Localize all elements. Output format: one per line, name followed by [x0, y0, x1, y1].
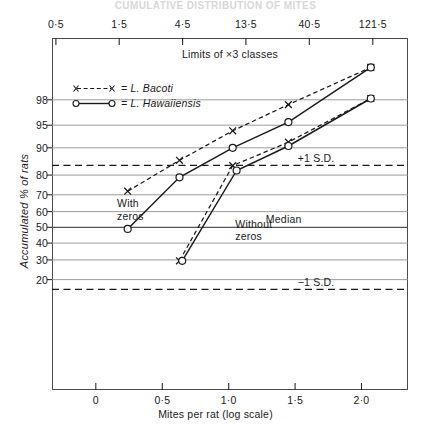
legend-item-hawaiiensis: = L. Hawaiiensis [72, 96, 201, 111]
chart-svg [0, 0, 431, 435]
top-axis-tick-label-0: 0·5 [48, 18, 64, 30]
chart-canvas [0, 0, 431, 435]
x-axis-tick-label-1: 0·5 [154, 394, 170, 406]
marker-cross [124, 188, 131, 195]
annotation-plus-1sd: +1 S.D. [298, 152, 335, 165]
annotation-median: Median [266, 213, 302, 226]
marker-circle [285, 143, 292, 150]
marker-cross [229, 127, 236, 134]
series-path [180, 99, 371, 261]
top-axis-tick-label-2: 4·5 [175, 18, 191, 30]
marker-circle [229, 144, 236, 151]
series-l-bacoti-without-zeros- [176, 95, 374, 264]
top-axis-tick-label-4: 40·5 [298, 18, 320, 30]
annotation-with-zeros: With zeros [117, 197, 144, 222]
series-path [182, 99, 371, 261]
marker-cross [285, 101, 292, 108]
marker-circle [176, 174, 183, 181]
legend-label-bacoti: = L. Bacoti [121, 81, 173, 96]
figure-root: CUMULATIVE DISTRIBUTION OF MITES 0·51·54… [0, 0, 431, 435]
top-axis-caption: Limits of ×3 classes [182, 48, 278, 60]
y-axis-tick-label-98: 98 [14, 94, 48, 106]
annotation-minus-1sd: −1 S.D. [298, 276, 335, 289]
legend-item-bacoti: = L. Bacoti [72, 81, 201, 96]
x-axis-tick-label-3: 1·5 [287, 394, 303, 406]
top-axis-tick-label-1: 1·5 [111, 18, 127, 30]
gridlines-group [52, 100, 408, 280]
marker-circle [124, 225, 131, 232]
marker-circle [179, 257, 186, 264]
series-l-hawaiiensis-without-zeros- [179, 95, 375, 264]
marker-circle [285, 119, 292, 126]
legend: = L. Bacoti = L. Hawaiiensis [72, 81, 201, 111]
marker-circle [367, 95, 374, 102]
top-axis-tick-label-3: 13·5 [235, 18, 257, 30]
legend-label-hawaiiensis: = L. Hawaiiensis [121, 96, 201, 111]
y-axis-title: Accumulated % of rats [18, 141, 30, 281]
marker-cross [176, 157, 183, 164]
marker-circle [367, 64, 374, 71]
x-axis-tick-label-2: 1·0 [221, 394, 237, 406]
x-axis-tick-label-4: 2·0 [354, 394, 370, 406]
annotation-with-zeros-line1: With [117, 197, 144, 210]
y-axis-tick-label-95: 95 [14, 119, 48, 131]
x-axis-tick-label-0: 0 [93, 394, 99, 406]
annotation-without-zeros-line2: zeros [235, 230, 272, 243]
legend-swatch-dashed-cross [72, 83, 116, 94]
marker-circle [233, 167, 240, 174]
legend-swatch-solid-circle [72, 98, 116, 109]
top-axis-tick-label-5: 121·5 [359, 18, 387, 30]
x-axis-title: Mites per rat (log scale) [0, 408, 431, 420]
annotation-with-zeros-line2: zeros [117, 210, 144, 223]
